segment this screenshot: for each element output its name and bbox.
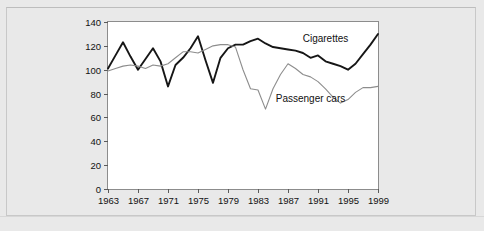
y-axis-tick-label: 100 xyxy=(85,65,101,76)
y-axis-tick-label: 40 xyxy=(90,136,101,147)
x-axis-tick-label: 1991 xyxy=(308,195,329,206)
chart-screenshot: 020406080100120140 196319671971197519791… xyxy=(0,0,484,231)
x-axis-tick-label: 1963 xyxy=(98,195,119,206)
y-axis-tick-label: 140 xyxy=(85,17,101,28)
y-axis-tick-labels: 020406080100120140 xyxy=(85,17,101,195)
y-axis-tick-label: 80 xyxy=(90,89,101,100)
x-axis-tick-label: 1975 xyxy=(188,195,209,206)
x-axis-tick-label: 1983 xyxy=(248,195,269,206)
x-axis-tick-labels: 1963196719711975197919831987199119951999 xyxy=(98,195,389,206)
y-axis-tick-label: 120 xyxy=(85,41,101,52)
y-axis-tick-label: 20 xyxy=(90,160,101,171)
line-chart: 020406080100120140 196319671971197519791… xyxy=(0,0,484,231)
x-axis-tick-label: 1979 xyxy=(218,195,239,206)
x-axis-tick-label: 1987 xyxy=(278,195,299,206)
x-axis-tick-label: 1995 xyxy=(338,195,359,206)
x-axis-tick-label: 1967 xyxy=(128,195,149,206)
x-axis-tick-label: 1999 xyxy=(368,195,389,206)
series-label-cigarettes: Cigarettes xyxy=(303,33,349,44)
series-label-passenger-cars: Passenger cars xyxy=(276,93,345,104)
x-axis-tick-label: 1971 xyxy=(158,195,179,206)
plot-area-background xyxy=(108,22,379,190)
y-axis-tick-label: 60 xyxy=(90,112,101,123)
y-axis-tick-label: 0 xyxy=(96,184,101,195)
